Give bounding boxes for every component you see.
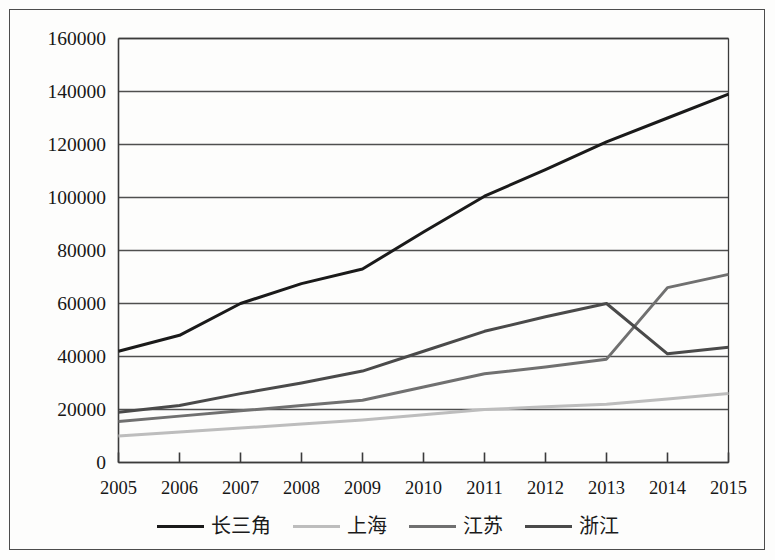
legend-label: 长三角 — [211, 516, 271, 536]
chart-figure: 0200004000060000800001000001200001400001… — [0, 0, 775, 560]
chart-legend: 长三角上海江苏浙江 — [0, 516, 775, 536]
y-axis-tick-text: 160000 — [0, 29, 106, 49]
legend-item: 浙江 — [525, 516, 619, 536]
x-axis-tick-label: 2015 — [710, 479, 747, 498]
plot-canvas — [0, 0, 775, 560]
x-axis-tick-label: 2006 — [161, 479, 198, 498]
x-axis-tick-label: 2013 — [588, 479, 625, 498]
y-axis-tick-text: 0 — [0, 453, 106, 473]
x-axis-tick-label: 2014 — [649, 479, 686, 498]
legend-item: 江苏 — [409, 516, 503, 536]
x-axis-tick-label: 2009 — [344, 479, 381, 498]
legend-line-swatch-icon — [409, 525, 456, 528]
data-series-group — [119, 94, 729, 436]
legend-label: 上海 — [347, 516, 387, 536]
x-axis-tick-label: 2012 — [527, 479, 564, 498]
legend-label: 江苏 — [463, 516, 503, 536]
y-axis-tick-text: 120000 — [0, 135, 106, 155]
x-axis-tick-label: 2011 — [466, 479, 502, 498]
legend-item: 长三角 — [157, 516, 271, 536]
legend-label: 浙江 — [579, 516, 619, 536]
y-axis-tick-text: 20000 — [0, 400, 106, 420]
y-axis-tick-text: 80000 — [0, 241, 106, 261]
x-axis-ticks-group — [119, 453, 729, 463]
y-axis-tick-text: 100000 — [0, 188, 106, 208]
legend-item: 上海 — [293, 516, 387, 536]
x-axis-tick-label: 2007 — [222, 479, 259, 498]
y-axis-tick-text: 60000 — [0, 294, 106, 314]
series-line — [119, 94, 729, 351]
line-chart: 0200004000060000800001000001200001400001… — [0, 0, 775, 560]
x-axis-tick-label: 2005 — [100, 479, 137, 498]
x-axis-tick-label: 2008 — [283, 479, 320, 498]
legend-line-swatch-icon — [293, 525, 340, 528]
legend-line-swatch-icon — [157, 525, 204, 528]
y-axis-tick-text: 40000 — [0, 347, 106, 367]
legend-line-swatch-icon — [525, 525, 572, 528]
y-axis-tick-text: 140000 — [0, 82, 106, 102]
x-axis-tick-label: 2010 — [405, 479, 442, 498]
